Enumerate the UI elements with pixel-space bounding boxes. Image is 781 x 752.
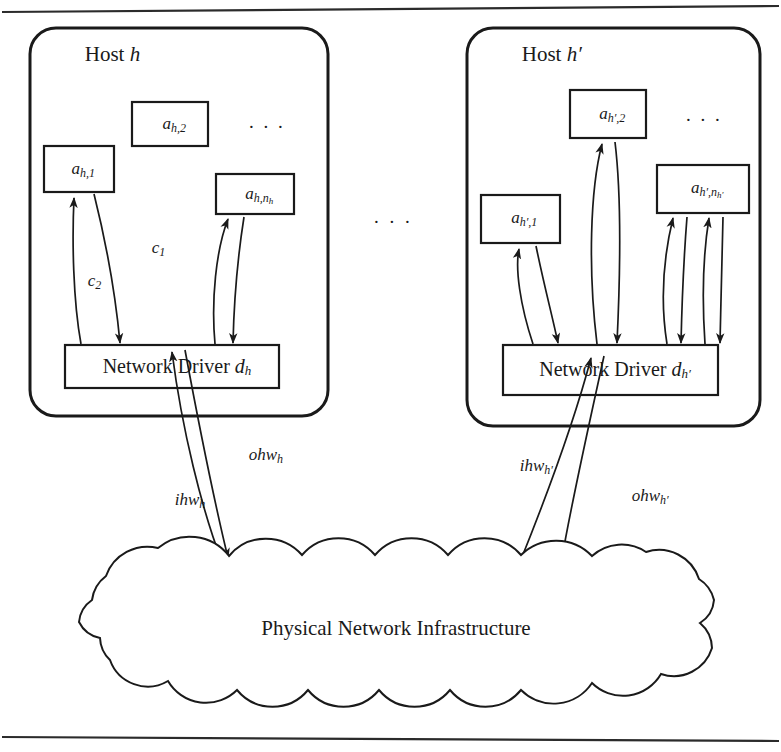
between-hosts-ellipsis: . . . [374, 206, 413, 227]
app-label-a-hp-2: ah′,2 [569, 104, 646, 127]
host-right-label: Host h′ [485, 42, 608, 66]
arrow-a-hp-n-up-1 [663, 218, 673, 344]
channel-label-c2: c2 [58, 271, 123, 294]
arrow-a-hp-1-down [536, 246, 558, 343]
arrow-c1-down [94, 194, 120, 343]
host-left-label: Host h [48, 42, 166, 66]
host-left-ellipsis: . . . [249, 111, 285, 132]
hw-label-ihw-hp: ihwh′ [490, 456, 574, 479]
arrow-a-h-n-down [233, 217, 244, 343]
network-architecture-diagram: Host h ah,2 . . . ah,1 ah,nh Network Dri… [0, 0, 781, 752]
app-label-a-h-2: ah,2 [133, 114, 208, 137]
arrow-a-hp-n-down-1 [681, 217, 687, 343]
app-label-a-h-n: ah,nh [216, 184, 295, 210]
figure-canvas: Host h ah,2 . . . ah,1 ah,nh Network Dri… [0, 0, 781, 752]
driver-label-d-hp: Network Driver dh′ [504, 358, 716, 384]
arrow-a-hp-2-down [615, 142, 620, 343]
page-rule-top [2, 6, 779, 12]
app-label-a-hp-1: ah′,1 [481, 208, 558, 231]
arrow-a-hp-n-up-2 [703, 218, 709, 344]
host-right-ellipsis: . . . [686, 104, 722, 125]
arrow-a-h-n-up [214, 219, 228, 344]
page-rule-bottom [2, 737, 779, 741]
hw-label-ihw-h: ihwh [145, 490, 227, 513]
app-label-a-h-1: ah,1 [42, 159, 117, 182]
hw-label-ohw-h: ohwh [219, 445, 304, 468]
arrow-a-hp-n-down-2 [720, 217, 723, 343]
channel-label-c1: c1 [122, 238, 187, 261]
cloud-label: Physical Network Infrastructure [261, 616, 530, 640]
hw-label-ohw-hp: ohwh′ [602, 486, 690, 509]
arrow-ihw-h-up [172, 352, 222, 562]
arrow-a-hp-1-up [518, 249, 533, 344]
app-label-a-hp-n: ah′,nh′ [661, 178, 745, 204]
arrow-a-hp-2-up [591, 144, 602, 344]
